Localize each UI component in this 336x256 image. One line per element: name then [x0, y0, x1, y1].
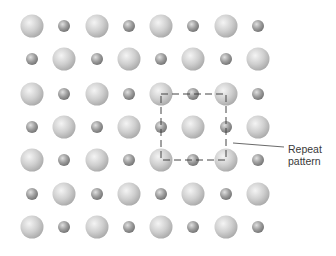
large-sphere [150, 216, 173, 239]
sphere-grid [21, 15, 270, 239]
small-sphere [91, 53, 103, 65]
large-sphere [118, 48, 141, 71]
small-sphere [91, 188, 103, 200]
large-sphere [21, 149, 44, 172]
small-sphere [58, 154, 70, 166]
small-sphere [187, 221, 199, 233]
small-sphere [123, 20, 135, 32]
large-sphere [53, 48, 76, 71]
large-sphere [21, 83, 44, 106]
small-sphere [123, 88, 135, 100]
small-sphere [155, 188, 167, 200]
small-sphere [58, 221, 70, 233]
leader-line [233, 143, 284, 147]
large-sphere [215, 15, 238, 38]
small-sphere [26, 121, 38, 133]
small-sphere [252, 221, 264, 233]
small-sphere [26, 188, 38, 200]
large-sphere [247, 116, 270, 139]
small-sphere [91, 121, 103, 133]
large-sphere [86, 149, 109, 172]
small-sphere [123, 154, 135, 166]
large-sphere [150, 15, 173, 38]
small-sphere [58, 88, 70, 100]
large-sphere [182, 183, 205, 206]
small-sphere [123, 221, 135, 233]
small-sphere [220, 53, 232, 65]
large-sphere [118, 183, 141, 206]
repeat-label-line1: Repeat [288, 143, 322, 155]
small-sphere [58, 20, 70, 32]
small-sphere [252, 20, 264, 32]
lattice-canvas [0, 0, 336, 256]
large-sphere [53, 116, 76, 139]
large-sphere [247, 183, 270, 206]
repeat-label-line2: pattern [288, 155, 321, 167]
small-sphere [252, 154, 264, 166]
small-sphere [26, 53, 38, 65]
large-sphere [118, 116, 141, 139]
large-sphere [247, 48, 270, 71]
small-sphere [252, 88, 264, 100]
small-sphere [187, 20, 199, 32]
large-sphere [21, 15, 44, 38]
lattice-diagram: Repeat pattern [0, 0, 336, 256]
large-sphere [86, 216, 109, 239]
large-sphere [86, 83, 109, 106]
large-sphere [21, 216, 44, 239]
large-sphere [53, 183, 76, 206]
large-sphere [182, 116, 205, 139]
small-sphere [155, 53, 167, 65]
small-sphere [220, 188, 232, 200]
large-sphere [86, 15, 109, 38]
large-sphere [182, 48, 205, 71]
large-sphere [215, 216, 238, 239]
